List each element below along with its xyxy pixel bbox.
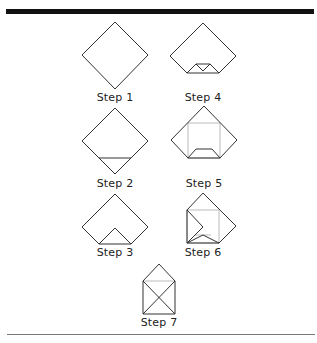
step-5-label: Step 5 (174, 177, 234, 190)
step-3-label: Step 3 (85, 246, 145, 259)
step-4-figure (170, 23, 236, 73)
step-7-label: Step 7 (129, 316, 189, 329)
step-1-figure (82, 22, 148, 89)
step-4-label: Step 4 (173, 91, 233, 104)
step-2-label: Step 2 (85, 177, 145, 190)
step-2-figure (82, 108, 148, 174)
folding-diagram (0, 0, 317, 343)
step-1-label: Step 1 (85, 91, 145, 104)
bottom-rule (7, 334, 315, 335)
step-7-figure (143, 264, 175, 314)
step-5-figure (171, 106, 237, 158)
step-6-figure (187, 193, 236, 243)
step-3-figure (82, 194, 148, 244)
step-6-label: Step 6 (173, 246, 233, 259)
